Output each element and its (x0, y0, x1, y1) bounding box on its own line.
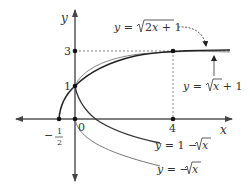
tick-label-4: 4 (169, 122, 176, 135)
tick-label-3: 3 (64, 45, 71, 58)
svg-text:y = −: y = − (156, 163, 189, 176)
tick-label-neg-half-sign: − (44, 129, 53, 142)
svg-text:y =: y = (113, 21, 133, 34)
svg-text:y =: y = (182, 80, 202, 93)
label-sqrt-x-plus-1: y = x + 1 (182, 79, 242, 93)
tick-label-neg-half-num: 1 (57, 127, 62, 136)
point-4-3 (171, 49, 176, 54)
svg-text:2x + 1: 2x + 1 (145, 21, 181, 34)
origin-label: 0 (78, 121, 85, 134)
point-y3 (73, 49, 78, 54)
y-axis-label: y (60, 11, 68, 25)
svg-text:x + 1: x + 1 (213, 80, 242, 93)
tick-label-1: 1 (64, 80, 71, 93)
point-x-neg-half (57, 117, 62, 122)
label-neg-sqrt-x: y = − x (156, 162, 201, 176)
label-one-minus-sqrt-x: y = 1 − x (154, 138, 211, 152)
svg-text:x: x (202, 139, 209, 152)
point-x4-axis (171, 117, 176, 122)
label-sqrt-2x-plus-1: y = 2x + 1 (113, 20, 181, 34)
function-graph: y x 3 1 0 4 − 1 2 y = 2x + 1 y = x + 1 y… (0, 0, 250, 190)
svg-text:x: x (192, 163, 199, 176)
curve-one-minus-sqrt-x (75, 86, 160, 143)
point-y1 (73, 84, 78, 89)
tick-label-neg-half-den: 2 (57, 138, 62, 147)
x-axis-label: x (220, 123, 227, 137)
curve-neg-sqrt-x (75, 119, 160, 166)
point-origin (73, 117, 78, 122)
svg-text:y = 1 −: y = 1 − (154, 139, 197, 152)
pointer-arrow-sqrt-2x-plus-1 (178, 27, 206, 46)
